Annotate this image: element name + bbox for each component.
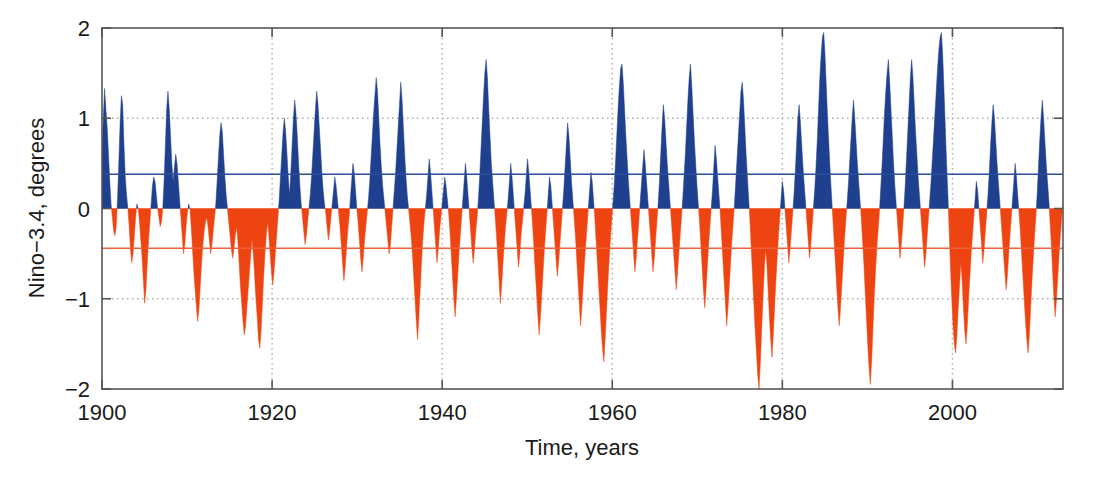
x-tick-label: 2000 [928,400,977,425]
x-tick-label: 1960 [588,400,637,425]
y-tick-label: 1 [78,106,90,131]
chart-canvas: −2−1012 190019201940196019802000 Nino−3.… [0,0,1097,478]
y-tick-label: 0 [78,197,90,222]
y-tick-label: 2 [78,16,90,41]
x-tick-label: 1980 [758,400,807,425]
y-axis-label: Nino−3.4, degrees [24,118,49,298]
y-tick-label: −1 [65,287,90,312]
x-tick-label: 1920 [248,400,297,425]
x-tick-label: 1940 [418,400,467,425]
y-tick-label: −2 [65,377,90,402]
x-tick-label: 1900 [78,400,127,425]
x-axis-label: Time, years [525,435,639,460]
nino34-timeseries-figure: −2−1012 190019201940196019802000 Nino−3.… [0,0,1097,478]
